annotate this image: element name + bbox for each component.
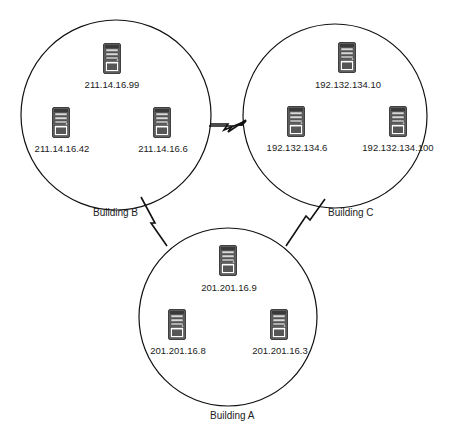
server-ip-label: 192.132.134.10 [315,79,381,90]
server-tower-icon [53,108,70,138]
server-ip-label: 192.132.134.100 [362,142,433,153]
lightning-link-building-b-to-a [141,197,167,246]
server-tower-icon [220,246,237,276]
network-diagram: 211.14.16.99 211.14.16.42 211.14.16.6 Bu… [0,0,450,436]
server-tower-icon [271,310,288,340]
server-201-201-16-9[interactable]: 201.201.16.9 [201,246,256,294]
server-tower-icon [339,43,356,73]
server-ip-label: 201.201.16.3 [252,345,307,356]
server-tower-icon [169,310,186,340]
building-label: Building B [93,207,138,218]
server-211-14-16-99[interactable]: 211.14.16.99 [85,44,140,91]
server-ip-label: 211.14.16.99 [85,79,140,90]
server-tower-icon [104,44,121,74]
building-b: 211.14.16.99 211.14.16.42 211.14.16.6 Bu… [21,20,211,218]
building-label: Building A [210,410,255,421]
server-ip-label: 192.132.134.6 [267,142,328,153]
server-ip-label: 201.201.16.8 [150,345,205,356]
server-192-132-134-100[interactable]: 192.132.134.100 [362,107,433,154]
server-tower-icon [288,107,305,137]
server-192-132-134-10[interactable]: 192.132.134.10 [315,43,381,91]
server-ip-label: 201.201.16.9 [201,282,256,293]
building-a: 201.201.16.9 201.201.16.8 201.201.16.3 B… [139,228,317,421]
server-211-14-16-42[interactable]: 211.14.16.42 [35,108,90,155]
server-ip-label: 211.14.16.42 [35,143,90,154]
server-192-132-134-6[interactable]: 192.132.134.6 [267,107,328,154]
server-tower-icon [154,108,171,138]
server-tower-icon [390,107,407,137]
server-201-201-16-8[interactable]: 201.201.16.8 [150,310,205,357]
building-c: 192.132.134.10 192.132.134.6 192.132.134… [243,24,434,218]
building-label: Building C [328,207,374,218]
server-201-201-16-3[interactable]: 201.201.16.3 [252,310,307,357]
server-ip-label: 211.14.16.6 [138,143,187,154]
server-211-14-16-6[interactable]: 211.14.16.6 [138,108,187,155]
